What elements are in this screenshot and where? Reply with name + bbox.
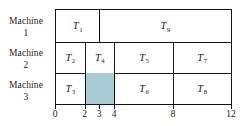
- x-axis-label-4: 4: [112, 108, 117, 120]
- task-label-t4: T4: [95, 52, 105, 63]
- task-label-t8: T8: [197, 83, 207, 94]
- x-axis-label-0: 0: [53, 108, 58, 120]
- x-axis-label-12: 12: [226, 108, 236, 120]
- row-label-machine-3-number: 3: [0, 92, 52, 104]
- row-label-machine-1-number: 1: [0, 28, 52, 40]
- row-label-machine-1: Machine 1: [0, 16, 52, 39]
- task-label-t9: T9: [160, 20, 170, 31]
- row-label-machine-3: Machine 3: [0, 80, 52, 103]
- task-label-t3: T3: [65, 83, 75, 94]
- row-label-machine-2-number: 2: [0, 60, 52, 72]
- task-label-t2: T2: [65, 52, 75, 63]
- row-label-machine-1-name: Machine: [0, 16, 52, 28]
- plot-area: T1 T9 T2 T4 T5 T7 T3 T6 T8: [55, 9, 232, 105]
- row-label-machine-2: Machine 2: [0, 48, 52, 71]
- task-label-t5: T5: [139, 52, 149, 63]
- task-label-t6: T6: [139, 83, 149, 94]
- task-block-t9[interactable]: T9: [100, 10, 230, 42]
- task-label-t7: T7: [197, 52, 207, 63]
- x-axis-label-8: 8: [171, 108, 176, 120]
- task-block-t1[interactable]: T1: [56, 10, 100, 42]
- task-block-t8[interactable]: T8: [174, 73, 230, 104]
- task-block-t6[interactable]: T6: [115, 73, 174, 104]
- row-label-machine-3-name: Machine: [0, 80, 52, 92]
- task-block-t3[interactable]: T3: [56, 73, 86, 104]
- task-block-t5[interactable]: T5: [115, 42, 174, 74]
- row-label-machine-2-name: Machine: [0, 48, 52, 60]
- x-axis-label-3: 3: [97, 108, 102, 120]
- task-block-t4[interactable]: T4: [86, 42, 116, 74]
- task-label-t1: T1: [73, 20, 83, 31]
- gantt-chart-figure: Machine 1 Machine 2 Machine 3 T1 T9 T2 T…: [0, 0, 249, 126]
- task-block-highlighted-idle[interactable]: [86, 73, 116, 104]
- task-block-t7[interactable]: T7: [174, 42, 230, 74]
- task-block-t2[interactable]: T2: [56, 42, 86, 74]
- x-axis-label-2: 2: [82, 108, 87, 120]
